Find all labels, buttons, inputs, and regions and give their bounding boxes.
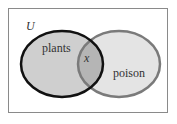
intersection-label: x — [83, 51, 90, 65]
set-plants-label: plants — [42, 41, 71, 55]
set-poison-label: poison — [113, 66, 145, 80]
universe-label: U — [26, 19, 36, 33]
venn-diagram: U plants x poison — [0, 0, 177, 124]
